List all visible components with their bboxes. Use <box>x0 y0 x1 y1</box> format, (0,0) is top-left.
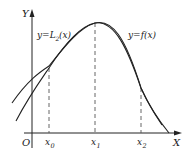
interpolation-diagram: Y X O x 0 x 1 x 2 y=L 2 (x) y=f(x) <box>0 0 187 158</box>
tick-x0-main: x <box>45 137 50 147</box>
tick-x1-main: x <box>91 137 96 147</box>
tick-label-x2: x 2 <box>137 137 147 150</box>
tick-x0-sub: 0 <box>51 142 55 150</box>
tick-label-x1: x 1 <box>91 137 101 150</box>
origin-label: O <box>22 137 30 148</box>
y-axis-arrow-icon <box>30 9 35 17</box>
label-L2-main: y=L <box>36 30 56 40</box>
x-axis-label: X <box>172 137 181 148</box>
tick-label-x0: x 0 <box>45 137 55 150</box>
label-L2: y=L 2 (x) <box>36 30 72 42</box>
label-L2-tail: (x) <box>59 30 72 40</box>
tick-x2-sub: 2 <box>142 142 147 150</box>
x-axis-arrow-icon <box>174 131 182 136</box>
tick-x1-sub: 1 <box>97 142 101 150</box>
y-axis-label: Y <box>22 8 30 19</box>
tick-x2-main: x <box>137 137 142 147</box>
label-f: y=f(x) <box>127 30 157 40</box>
